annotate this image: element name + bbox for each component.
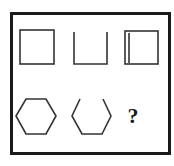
question-mark: ? — [121, 104, 145, 128]
hexagon-open-top-icon — [72, 99, 111, 134]
square-inner-line-icon — [125, 31, 158, 64]
hexagon-closed-icon — [16, 99, 56, 134]
square-closed-icon — [20, 30, 54, 64]
puzzle-figures — [0, 0, 174, 166]
square-open-top-icon — [74, 32, 107, 64]
